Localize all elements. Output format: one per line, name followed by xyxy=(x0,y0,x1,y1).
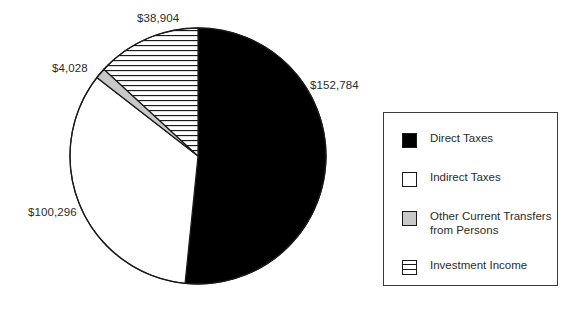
solid-black-swatch-icon xyxy=(402,133,417,148)
white-swatch-icon xyxy=(402,172,417,187)
pie-chart-figure: $38,904 $152,784 $100,296 $4,028 Direct … xyxy=(0,0,588,310)
chart-legend: Direct Taxes Indirect Taxes Other Curren… xyxy=(383,112,558,286)
legend-label: Other Current Transfers from Persons xyxy=(430,210,551,237)
legend-item-other-current-transfers: Other Current Transfers from Persons xyxy=(402,210,551,237)
gray-swatch-icon xyxy=(402,211,417,226)
legend-label: Investment Income xyxy=(430,259,527,273)
value-label-indirect-taxes: $100,296 xyxy=(28,206,77,218)
legend-label: Direct Taxes xyxy=(430,132,493,146)
legend-item-indirect-taxes: Indirect Taxes xyxy=(402,171,501,187)
hatched-swatch-icon xyxy=(402,260,417,275)
legend-item-direct-taxes: Direct Taxes xyxy=(402,132,493,148)
value-label-direct-taxes: $152,784 xyxy=(310,79,359,91)
legend-label: Indirect Taxes xyxy=(430,171,501,185)
legend-item-investment-income: Investment Income xyxy=(402,259,527,275)
value-label-investment-income: $38,904 xyxy=(137,12,179,24)
value-label-other-current-transfers: $4,028 xyxy=(52,62,88,74)
pie-slices-group xyxy=(70,28,326,284)
pie-slice xyxy=(185,28,326,284)
